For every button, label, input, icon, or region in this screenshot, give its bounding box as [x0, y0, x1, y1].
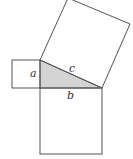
label-a: a [30, 67, 37, 80]
pythagoras-diagram: a c b [0, 0, 133, 159]
label-c: c [69, 62, 75, 75]
label-b: b [67, 89, 74, 102]
